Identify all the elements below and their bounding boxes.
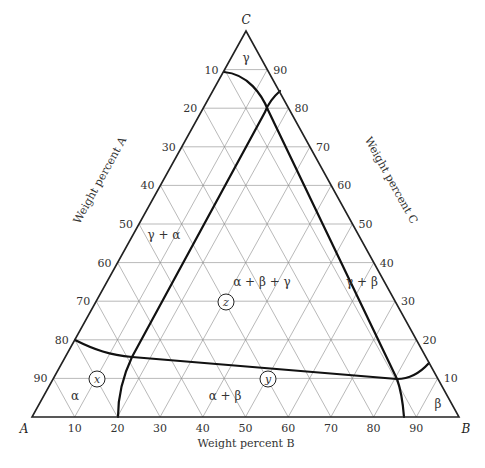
tick-label-a: 80 [55,334,69,347]
grid-line [331,301,395,417]
tick-label-c: 10 [444,372,458,385]
tick-label-b: 90 [409,422,423,435]
tick-label-a: 90 [33,372,47,385]
tick-label-c: 20 [422,334,436,347]
point-z: z [218,294,234,310]
gamma-solvus-boundary [224,72,404,417]
vertex-a-label: A [19,422,29,436]
point-z-label: z [222,296,229,309]
beta-solvus-boundary [397,363,429,379]
axis-title-c: Weight percent C [362,135,421,226]
tick-label-a: 10 [205,64,219,77]
tick-label-b: 70 [324,422,338,435]
phase-label-alpha-beta: α + β [209,389,242,403]
tick-label-b: 10 [68,422,82,435]
phase-label-beta: β [435,397,442,411]
phase-label-gamma: γ [242,51,249,65]
alpha-beta-tie-boundary [75,340,397,379]
tick-label-c: 30 [401,295,415,308]
tick-label-a: 20 [183,102,197,115]
grid-lines [53,70,437,417]
ternary-diagram: C A B 1010102020203030304040405050506060… [0,0,485,468]
phase-label-alpha: α [71,389,79,403]
point-x-label: x [94,373,101,386]
tick-label-c: 40 [380,257,394,270]
tick-label-a: 70 [76,295,90,308]
tick-label-c: 90 [273,64,287,77]
point-x: x [89,371,105,387]
axis-title-a: Weight percent A [71,134,130,226]
vertex-b-label: B [461,422,471,436]
tick-label-b: 20 [110,422,124,435]
tick-label-b: 50 [239,422,253,435]
point-y-label: y [264,373,272,386]
tick-label-c: 70 [316,141,330,154]
tick-label-a: 60 [98,257,112,270]
phase-label-gamma-alpha: γ + α [148,228,181,242]
tick-label-b: 30 [153,422,167,435]
tick-label-c: 50 [359,218,373,231]
tick-label-c: 80 [295,102,309,115]
tick-label-b: 40 [196,422,210,435]
tick-label-a: 30 [162,141,176,154]
axis-title-b: Weight percent B [197,437,294,450]
tick-label-b: 80 [367,422,381,435]
grid-line [225,70,417,417]
tick-label-a: 40 [140,179,154,192]
point-y: y [260,371,276,387]
tick-label-a: 50 [119,218,133,231]
tick-label-c: 60 [337,179,351,192]
tick-label-b: 60 [281,422,295,435]
phase-label-alpha-beta-gamma: α + β + γ [233,275,291,289]
phase-label-gamma-beta: γ + β [346,275,378,289]
vertex-c-label: C [241,13,250,27]
